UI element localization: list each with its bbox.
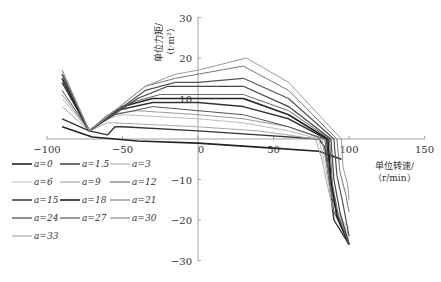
axes: −100−50050100150−30−20−10102030 bbox=[33, 13, 434, 267]
x-tick-label: 150 bbox=[415, 144, 434, 155]
x-tick-label: −100 bbox=[33, 144, 60, 155]
y-tick-label: −20 bbox=[171, 215, 192, 226]
y-tick-label: 30 bbox=[179, 13, 192, 24]
legend-label: a=24 bbox=[34, 213, 59, 223]
x-tick-label: 50 bbox=[267, 144, 280, 155]
legend-label: a=9 bbox=[82, 177, 101, 187]
legend-label: a=1.5 bbox=[82, 159, 109, 169]
legend-label: a=27 bbox=[82, 213, 107, 223]
x-tick-label: 0 bbox=[198, 144, 204, 155]
legend-label: a=6 bbox=[34, 177, 53, 187]
legend-label: a=0 bbox=[34, 159, 53, 169]
y-tick-label: −10 bbox=[171, 175, 192, 186]
legend-label: a=18 bbox=[82, 195, 107, 205]
y-tick-label: −30 bbox=[171, 256, 192, 267]
x-axis-label-line2: （r/min） bbox=[373, 173, 416, 183]
legend-label: a=3 bbox=[132, 159, 151, 169]
x-axis-label-line1: 单位转速/ bbox=[375, 160, 415, 171]
legend: a=0a=1.5a=3a=6a=9a=12a=15a=18a=21a=24a=2… bbox=[12, 159, 157, 241]
y-tick-label: 20 bbox=[179, 53, 192, 64]
y-axis-label-line1: 单位力矩/ bbox=[153, 22, 164, 62]
x-tick-label: −50 bbox=[112, 144, 133, 155]
chart: −100−50050100150−30−20−10102030 a=0a=1.5… bbox=[0, 0, 441, 282]
y-axis-label-line2: （t·m²） bbox=[166, 23, 176, 60]
legend-label: a=33 bbox=[34, 231, 59, 241]
legend-label: a=15 bbox=[34, 195, 59, 205]
legend-label: a=21 bbox=[132, 195, 156, 205]
legend-label: a=30 bbox=[132, 213, 157, 223]
legend-label: a=12 bbox=[132, 177, 157, 187]
